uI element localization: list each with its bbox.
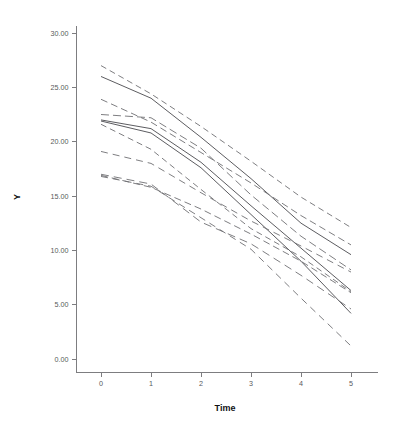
- series-line-subject-7: [101, 124, 351, 291]
- axes-group: [77, 26, 379, 373]
- y-tick-label: 15.00: [51, 192, 69, 201]
- series-lines-group: [101, 66, 351, 346]
- series-line-subject-8: [101, 151, 351, 272]
- series-line-subject-11: [101, 176, 351, 346]
- chart-container: 0.005.0010.0015.0020.0025.0030.00 012345…: [0, 0, 410, 428]
- series-line-subject-2: [101, 76, 351, 254]
- x-tick-label: 4: [299, 379, 303, 388]
- series-line-subject-5: [101, 120, 351, 291]
- x-axis-ticks: 012345: [99, 373, 353, 389]
- series-line-subject-6: [101, 121, 351, 313]
- series-line-subject-1: [101, 66, 351, 228]
- spaghetti-plot-svg: 0.005.0010.0015.0020.0025.0030.00 012345…: [0, 0, 410, 428]
- y-tick-label: 0.00: [55, 355, 69, 364]
- y-tick-label: 5.00: [55, 300, 69, 309]
- series-line-subject-9: [101, 174, 351, 309]
- y-tick-label: 20.00: [51, 137, 69, 146]
- x-tick-label: 3: [249, 379, 253, 388]
- x-tick-label: 2: [199, 379, 203, 388]
- y-tick-label: 25.00: [51, 83, 69, 92]
- y-axis-title: Y: [12, 194, 22, 200]
- y-tick-label: 10.00: [51, 246, 69, 255]
- y-tick-label: 30.00: [51, 29, 69, 38]
- series-line-subject-10: [101, 175, 351, 292]
- series-line-subject-4: [101, 115, 351, 270]
- x-tick-label: 5: [349, 379, 353, 388]
- y-axis-ticks: 0.005.0010.0015.0020.0025.0030.00: [51, 29, 77, 364]
- x-tick-label: 0: [99, 379, 103, 388]
- series-line-subject-3: [101, 99, 351, 245]
- x-axis-title: Time: [215, 403, 236, 413]
- x-tick-label: 1: [149, 379, 153, 388]
